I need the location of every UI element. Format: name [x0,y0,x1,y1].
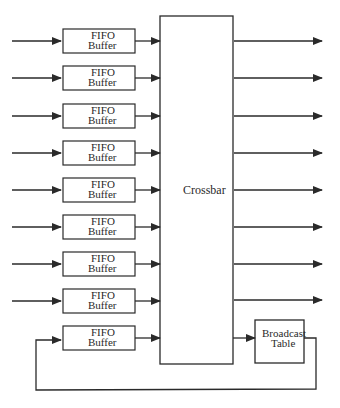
crossbar-diagram: Crossbar FIFOBufferFIFOBufferFIFOBufferF… [0,0,340,408]
fifo-buffers: FIFOBufferFIFOBufferFIFOBufferFIFOBuffer… [12,29,160,350]
fifo-buffer: FIFOBuffer [12,141,160,165]
fifo-buffer: FIFOBuffer [12,104,160,128]
fifo-buffer: FIFOBuffer [12,29,160,53]
broadcast-table-block: Broadcast Table [233,320,306,363]
buffer-label-line2: Buffer [88,114,117,126]
fifo-buffer: FIFOBuffer [12,66,160,90]
fifo-buffer: FIFOBuffer [12,178,160,202]
output-arrows [234,41,322,300]
fifo-buffer: FIFOBuffer [12,252,160,276]
fifo-buffer: FIFOBuffer [12,289,160,313]
broadcast-label-line2: Table [271,337,295,349]
buffer-label-line2: Buffer [88,39,117,51]
crossbar-block: Crossbar [160,16,233,364]
buffer-label-line2: Buffer [88,299,117,311]
crossbar-label: Crossbar [183,183,226,197]
buffer-label-line2: Buffer [88,151,117,163]
fifo-buffer: FIFOBuffer [63,326,160,350]
fifo-buffer: FIFOBuffer [12,215,160,239]
buffer-label-line2: Buffer [88,76,117,88]
buffer-label-line2: Buffer [88,225,117,237]
buffer-label-line2: Buffer [88,188,117,200]
buffer-label-line2: Buffer [88,336,117,348]
buffer-label-line2: Buffer [88,262,117,274]
